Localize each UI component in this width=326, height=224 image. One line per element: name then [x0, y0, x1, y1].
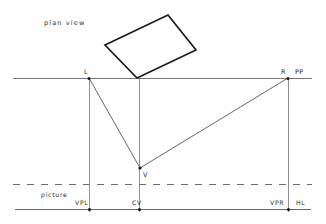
label-cv: CV: [132, 200, 142, 206]
point-label-v: V: [143, 172, 148, 178]
node-marker-vpr: [287, 208, 290, 211]
point-label-r: R: [281, 69, 286, 75]
node-marker-r: [287, 77, 290, 80]
node-marker-vpl: [88, 208, 91, 211]
sight-line-left: [89, 78, 140, 168]
picture-label: picture: [41, 192, 68, 198]
sight-line-right: [140, 78, 288, 168]
node-marker-v: [138, 166, 141, 169]
label-vpl: VPL: [75, 200, 89, 206]
plan-view-label: plan view: [44, 20, 85, 27]
plan-rectangle-outline: [105, 15, 196, 78]
label-hl: HL: [296, 200, 306, 206]
node-marker-cv: [138, 208, 141, 211]
point-label-l: L: [84, 69, 88, 75]
perspective-construction-diagram: plan view L R PP V picture VPL CV VPR HL: [0, 0, 326, 224]
picture-plane-label: PP: [295, 69, 304, 75]
node-marker-l: [88, 77, 91, 80]
label-vpr: VPR: [270, 200, 284, 206]
